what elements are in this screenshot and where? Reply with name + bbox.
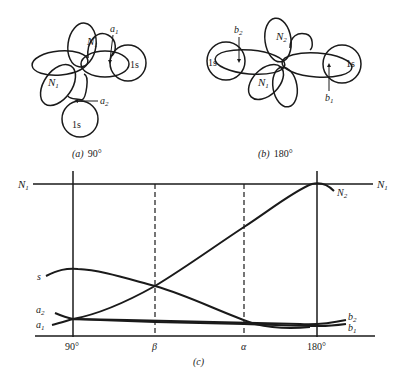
arrowhead-b1	[327, 63, 331, 67]
label-n1-lower: N1	[47, 76, 59, 90]
panel-c-plot	[33, 171, 375, 337]
label-a2: a2	[100, 95, 109, 108]
label-1s-bottom: 1s	[72, 119, 81, 130]
arrowhead-b2	[237, 59, 241, 63]
label-n2: N2	[275, 30, 287, 44]
orbital-lobe-right	[281, 51, 353, 80]
orbital-lobe-left	[31, 49, 89, 78]
label-a1: a1	[110, 23, 119, 36]
caption-a: (a)90°	[72, 148, 102, 160]
label-b2: b2	[234, 24, 243, 37]
tick-alpha: α	[241, 341, 247, 352]
panel-b-labels: N2 N1 1s 1s b2 b1 (b)180°	[208, 24, 355, 160]
panel-b-orbital-drawing	[207, 16, 361, 108]
label-1s-right: 1s	[346, 58, 355, 69]
label-a2-curve: a2	[36, 304, 45, 317]
label-n1-left: N1	[17, 178, 29, 192]
tick-beta: β	[151, 341, 157, 352]
panel-a-labels: N1 N1 1s 1s a1 a2 (a)90°	[47, 23, 139, 160]
label-b1: b1	[325, 92, 334, 105]
tick-90: 90°	[65, 341, 79, 352]
label-n1-right: N1	[376, 178, 388, 192]
hydrogen-1s-right	[110, 45, 146, 81]
label-s-curve: s	[37, 271, 41, 282]
label-n1: N1	[257, 76, 269, 90]
caption-c: (c)	[193, 356, 205, 368]
orbital-diagram-figure: N1 N1 1s 1s a1 a2 (a)90° N2 N1 1s 1s b2 …	[0, 0, 404, 386]
label-n2-curve: N2	[336, 187, 348, 200]
curve-n2	[73, 183, 334, 319]
orbital-lobe-upper-right	[290, 34, 312, 50]
caption-b: (b)180°	[258, 148, 293, 160]
curve-a1-b1	[52, 319, 346, 326]
arrowhead-a1	[108, 60, 112, 64]
label-1s-left: 1s	[208, 57, 217, 68]
tick-180: 180°	[307, 341, 326, 352]
label-a1-curve: a1	[36, 319, 45, 332]
orbital-lobe-down	[68, 74, 87, 100]
label-1s-right: 1s	[130, 59, 139, 70]
